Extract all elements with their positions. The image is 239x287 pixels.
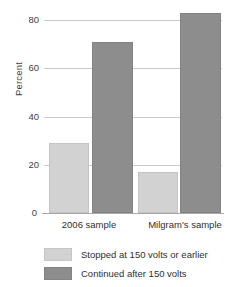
dark-gray-swatch-icon [44,267,72,280]
bar-milgram-continued [180,13,221,213]
y-tick-label-20: 20 [7,160,39,170]
legend-item-continued: Continued after 150 volts [44,264,239,283]
bar-chart: Percent 80 60 40 20 0 2006 sample Milgra… [0,0,239,287]
y-tick-label-80: 80 [7,15,39,25]
bar-2006-continued [92,42,133,213]
x-axis-label-milgram-sample: Milgram's sample [133,219,237,231]
light-gray-swatch-icon [44,248,72,261]
y-tick-label-0: 0 [5,208,37,218]
legend: Stopped at 150 volts or earlier Continue… [44,245,239,283]
x-axis-baseline: 0 [42,213,224,214]
bar-milgram-stopped [138,172,178,213]
legend-item-stopped: Stopped at 150 volts or earlier [44,245,239,264]
y-tick-label-60: 60 [7,63,39,73]
plot-area: 80 60 40 20 0 [44,14,222,214]
y-axis-title: Percent [12,34,26,124]
legend-label-stopped: Stopped at 150 volts or earlier [81,249,208,260]
y-tick-label-40: 40 [7,112,39,122]
x-axis-label-2006-sample: 2006 sample [44,219,134,231]
legend-label-continued: Continued after 150 volts [81,268,187,279]
bar-2006-stopped [49,143,89,213]
